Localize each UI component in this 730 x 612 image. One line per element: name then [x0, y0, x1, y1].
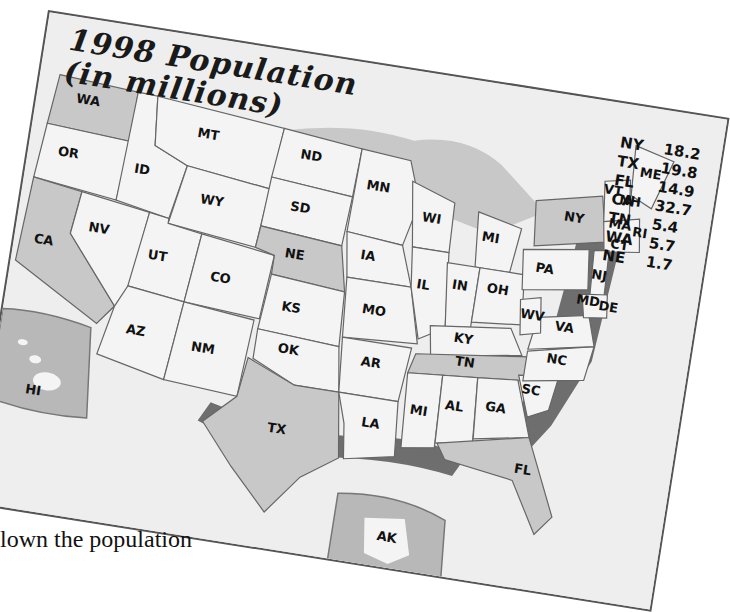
svg-text:TN: TN	[454, 353, 476, 371]
population-map-card: WAORCA IDNVMT WYUTAZ CONMND SDNEKS OKTXM…	[0, 10, 730, 612]
svg-text:UT: UT	[147, 247, 169, 265]
svg-text:NJ: NJ	[590, 266, 608, 283]
svg-text:IA: IA	[359, 247, 376, 264]
svg-text:VA: VA	[554, 318, 575, 336]
svg-text:MI: MI	[481, 229, 501, 247]
svg-text:PA: PA	[535, 260, 556, 278]
svg-text:SD: SD	[289, 198, 311, 216]
svg-text:AL: AL	[444, 397, 464, 415]
svg-text:WI: WI	[421, 209, 442, 227]
svg-text:DE: DE	[597, 298, 619, 316]
svg-text:NE: NE	[284, 245, 306, 263]
svg-text:IN: IN	[451, 277, 469, 294]
svg-text:ND: ND	[299, 146, 323, 164]
svg-text:TX: TX	[266, 420, 287, 438]
svg-text:IL: IL	[416, 276, 431, 293]
us-map: WAORCA IDNVMT WYUTAZ CONMND SDNEKS OKTXM…	[0, 12, 730, 611]
svg-text:GA: GA	[484, 398, 507, 416]
svg-text:KS: KS	[280, 298, 302, 316]
svg-text:NC: NC	[546, 350, 569, 368]
svg-text:CO: CO	[209, 269, 232, 287]
svg-text:HI: HI	[24, 381, 42, 398]
svg-text:LA: LA	[360, 414, 380, 432]
svg-text:MT: MT	[197, 125, 221, 143]
svg-text:FL: FL	[513, 461, 532, 479]
svg-text:AK: AK	[376, 528, 399, 546]
caption-text: lown the population	[0, 526, 192, 553]
svg-text:OR: OR	[57, 143, 80, 161]
svg-text:CA: CA	[33, 231, 55, 249]
svg-text:AR: AR	[360, 353, 382, 371]
svg-text:SC: SC	[520, 381, 541, 399]
svg-text:AZ: AZ	[125, 321, 147, 339]
svg-text:ID: ID	[133, 161, 151, 178]
svg-text:NV: NV	[87, 219, 110, 237]
svg-text:OH: OH	[486, 280, 510, 298]
svg-text:NY: NY	[563, 208, 586, 226]
svg-text:KY: KY	[453, 330, 475, 348]
svg-text:OK: OK	[277, 340, 301, 358]
svg-text:MI: MI	[409, 402, 429, 420]
